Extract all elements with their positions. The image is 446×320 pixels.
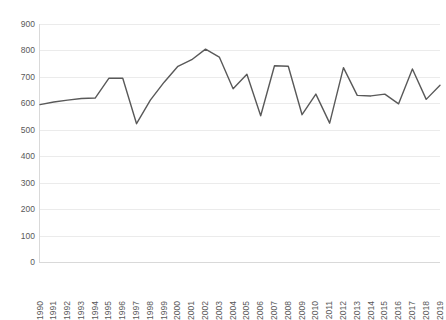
x-tick-label: 2004 [229, 301, 238, 320]
x-tick-label: 1999 [160, 301, 169, 320]
x-tick-slot: 2004 [229, 301, 238, 302]
x-tick-slot: 2019 [436, 301, 445, 302]
x-tick-label: 2012 [339, 301, 348, 320]
x-tick-label: 2017 [408, 301, 417, 320]
x-tick-label: 2008 [284, 301, 293, 320]
x-tick-label: 1996 [118, 301, 127, 320]
x-tick-slot: 1990 [36, 301, 45, 302]
x-tick-slot: 2015 [380, 301, 389, 302]
x-tick-label: 1993 [77, 301, 86, 320]
x-tick-label: 2013 [353, 301, 362, 320]
x-tick-slot: 1995 [104, 301, 113, 302]
x-tick-label: 2011 [325, 301, 334, 319]
x-tick-slot: 2017 [408, 301, 417, 302]
x-tick-slot: 2002 [201, 301, 210, 302]
x-tick-slot: 1991 [49, 301, 58, 302]
x-tick-slot: 1993 [77, 301, 86, 302]
x-tick-slot: 2018 [422, 301, 431, 302]
x-tick-label: 2010 [311, 301, 320, 320]
x-tick-slot: 1994 [91, 301, 100, 302]
x-tick-label: 2018 [422, 301, 431, 320]
x-tick-slot: 2013 [353, 301, 362, 302]
x-tick-slot: 2010 [311, 301, 320, 302]
x-tick-slot: 2003 [215, 301, 224, 302]
x-tick-label: 2003 [215, 301, 224, 320]
x-tick-slot: 2011 [325, 301, 334, 302]
x-axis-tick-labels: 1990199119921993199419951996199719981999… [40, 265, 440, 303]
x-tick-label: 1995 [104, 301, 113, 320]
x-tick-slot: 1997 [132, 301, 141, 302]
x-tick-slot: 2014 [367, 301, 376, 302]
x-tick-label: 2001 [187, 301, 196, 320]
x-tick-slot: 2001 [187, 301, 196, 302]
x-tick-slot: 1996 [118, 301, 127, 302]
x-tick-slot: 2007 [270, 301, 279, 302]
x-tick-label: 2019 [436, 301, 445, 320]
x-tick-label: 2016 [394, 301, 403, 320]
x-tick-slot: 1999 [160, 301, 169, 302]
x-tick-label: 1994 [91, 301, 100, 320]
x-tick-label: 2006 [256, 301, 265, 320]
x-tick-slot: 2012 [339, 301, 348, 302]
x-tick-label: 1997 [132, 301, 141, 320]
x-tick-label: 1992 [63, 301, 72, 320]
x-tick-slot: 1998 [146, 301, 155, 302]
x-tick-slot: 2016 [394, 301, 403, 302]
x-tick-label: 1990 [36, 301, 45, 320]
x-tick-slot: 2006 [256, 301, 265, 302]
x-tick-label: 2014 [367, 301, 376, 320]
x-tick-label: 2007 [270, 301, 279, 320]
x-tick-slot: 2009 [298, 301, 307, 302]
x-tick-slot: 2000 [173, 301, 182, 302]
x-tick-slot: 1992 [63, 301, 72, 302]
x-tick-label: 2009 [298, 301, 307, 320]
x-tick-label: 1991 [49, 301, 58, 320]
x-tick-label: 1998 [146, 301, 155, 320]
x-tick-label: 2005 [242, 301, 251, 320]
x-tick-slot: 2005 [242, 301, 251, 302]
x-tick-label: 2015 [380, 301, 389, 320]
x-tick-label: 2000 [173, 301, 182, 320]
x-tick-label: 2002 [201, 301, 210, 320]
x-tick-slot: 2008 [284, 301, 293, 302]
